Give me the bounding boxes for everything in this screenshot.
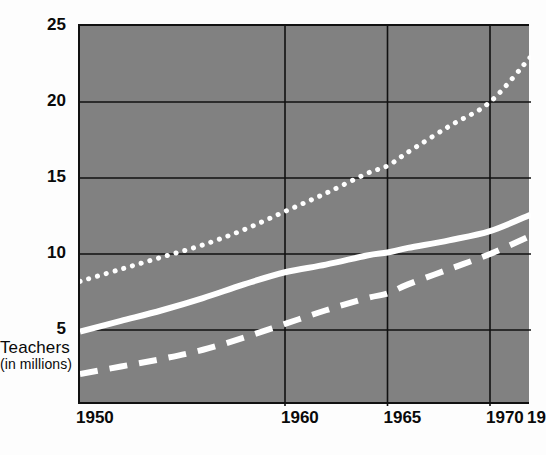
series-line-dashed-series [80, 236, 531, 374]
x-tick-label: 1965 [384, 409, 422, 426]
x-tick-label: 1960 [281, 409, 319, 426]
y-axis-title: Teachers (in millions) [0, 338, 74, 373]
y-tick-label: 25 [0, 16, 66, 33]
y-tick-label: 5 [0, 320, 66, 337]
y-tick-label: 20 [0, 92, 66, 109]
y-axis-ticks: 252015105 [0, 0, 72, 455]
y-axis-title-main: Teachers [0, 338, 74, 357]
x-tick-label: 1950 [76, 409, 114, 426]
x-tick-label: 1970 [486, 409, 524, 426]
data-series-group [80, 56, 531, 374]
chart-canvas [80, 26, 531, 406]
series-line-solid-series [80, 214, 531, 331]
y-axis-title-units: (in millions) [0, 357, 74, 373]
gridlines [80, 26, 531, 406]
y-tick-label: 10 [0, 244, 66, 261]
x-tick-label: 19 [527, 409, 546, 426]
series-line-dotted-series [80, 56, 531, 281]
y-tick-label: 15 [0, 168, 66, 185]
plot-area [78, 24, 529, 404]
